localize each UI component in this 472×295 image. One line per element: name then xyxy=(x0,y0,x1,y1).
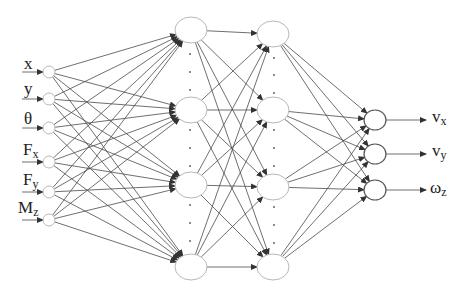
connection-edge xyxy=(53,41,183,215)
input-neuron xyxy=(43,122,55,134)
ellipsis-dot xyxy=(189,89,191,91)
hidden-2-neuron xyxy=(257,254,289,280)
ellipsis-dot xyxy=(273,165,275,167)
input-neuron xyxy=(43,93,55,105)
connection-edge xyxy=(54,76,180,176)
output-neuron xyxy=(364,144,386,164)
ellipsis-dot xyxy=(189,147,191,149)
ellipsis-dot xyxy=(273,224,275,226)
neuron-nodes xyxy=(43,17,386,280)
output-label-vx: vx xyxy=(432,108,447,127)
input-label-theta: θ xyxy=(24,110,32,129)
ellipsis-dot xyxy=(273,74,275,76)
input-label-fy: Fy xyxy=(23,171,38,190)
hidden-1-neuron xyxy=(175,97,207,123)
hidden-1-neuron xyxy=(175,254,207,280)
ellipsis-dot xyxy=(189,240,191,242)
connection-edge xyxy=(289,112,364,119)
ellipsis-dot xyxy=(273,57,275,59)
input-label-y: y xyxy=(24,80,33,99)
connection-edge xyxy=(282,45,368,146)
hidden-2-neuron xyxy=(257,174,289,200)
input-label-mz: Mz xyxy=(18,199,38,218)
ellipsis-dot xyxy=(189,222,191,224)
connection-edge xyxy=(287,116,365,150)
connection-edge xyxy=(55,186,175,192)
ellipsis-dot xyxy=(189,165,191,167)
output-label-omega-z: ωz xyxy=(430,179,447,198)
connection-edge xyxy=(207,31,257,33)
output-neuron xyxy=(364,110,386,130)
input-label-x: x xyxy=(24,55,33,74)
ellipsis-dot xyxy=(189,53,191,55)
connection-edge xyxy=(282,162,368,257)
connection-edge xyxy=(207,185,257,186)
connection-edge xyxy=(53,132,180,257)
connection-edge xyxy=(202,44,263,100)
connection-edge xyxy=(285,119,367,183)
output-neuron xyxy=(364,180,386,200)
ellipsis-dot xyxy=(273,92,275,94)
connection-edge xyxy=(281,45,370,181)
ellipsis-dot xyxy=(273,147,275,149)
ellipsis-dot xyxy=(273,242,275,244)
connection-edge xyxy=(54,119,180,216)
connection-edge xyxy=(55,34,176,70)
connection-edge xyxy=(54,195,177,260)
neural-network-diagram: x y θ Fx Fy Mz vx vy ωz xyxy=(0,0,472,295)
input-neuron xyxy=(43,156,55,168)
connection-edge xyxy=(281,128,369,255)
ellipsis-dot xyxy=(189,71,191,73)
input-neuron xyxy=(43,186,55,198)
connection-edge xyxy=(284,43,367,113)
ellipsis-dot xyxy=(189,129,191,131)
connection-edge xyxy=(54,38,179,124)
input-label-fx: Fx xyxy=(23,141,38,160)
hidden-2-neuron xyxy=(257,21,289,47)
connection-edge xyxy=(285,196,367,258)
ellipsis-dot xyxy=(189,204,191,206)
output-label-vy: vy xyxy=(432,142,447,161)
hidden-2-neuron xyxy=(257,97,289,123)
network-graph xyxy=(0,0,472,295)
input-neuron xyxy=(43,214,55,226)
ellipsis-dot xyxy=(273,129,275,131)
hidden-1-neuron xyxy=(175,172,207,198)
ellipsis-dot xyxy=(273,206,275,208)
connection-edge xyxy=(285,126,366,179)
input-neuron xyxy=(43,66,55,78)
hidden-1-neuron xyxy=(175,17,207,43)
